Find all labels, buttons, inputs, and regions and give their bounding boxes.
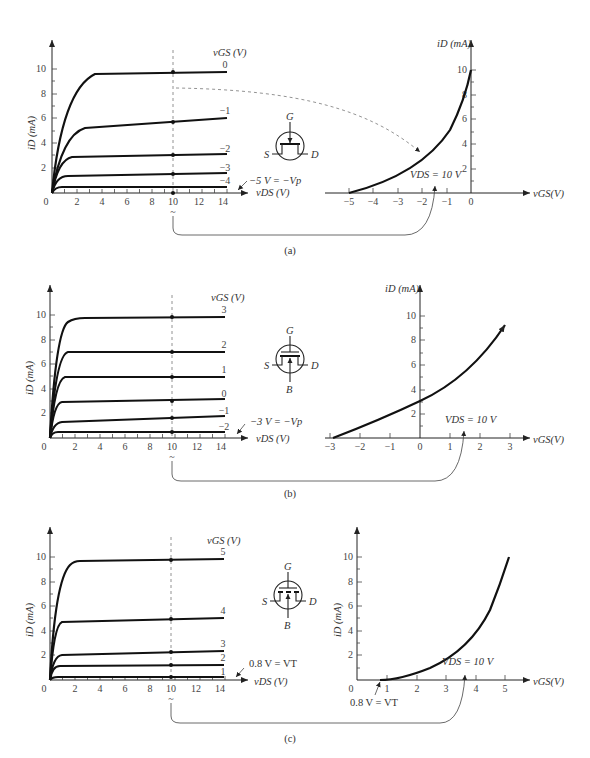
x-tick-label: 0 xyxy=(349,683,354,694)
vds-10-points xyxy=(169,558,173,679)
x-tick-label: 2 xyxy=(478,441,483,452)
y-tick-label: 6 xyxy=(411,359,416,370)
x-tick-label: 14 xyxy=(215,683,225,694)
x-tick-label: −4 xyxy=(368,196,379,207)
y-axis-label: iD (mA) xyxy=(24,360,36,395)
tilde-mark: ~ xyxy=(169,451,175,462)
y-ticks xyxy=(471,70,476,181)
panel-b-output-plot: 10 8 6 4 2 0 2 4 6 8 10 12 14 iD (mA) vD… xyxy=(24,285,302,462)
y-tick-label: 10 xyxy=(343,551,353,562)
y-axis-label: iD (mA) xyxy=(26,115,38,150)
y-tick-label: 6 xyxy=(348,600,353,611)
x-axis-label: vGS(V) xyxy=(533,676,564,688)
y-tick-label: 8 xyxy=(411,334,416,345)
x-tick-label: 5 xyxy=(503,683,508,694)
curve-label: 1 xyxy=(221,666,226,677)
curve-label: −4 xyxy=(220,175,231,186)
gate-label: G xyxy=(284,561,292,572)
x-tick-label: 0 xyxy=(469,196,474,207)
x-tick-label: 6 xyxy=(125,196,130,207)
x-tick-label: 6 xyxy=(123,683,128,694)
vds-note: VDS = 10 V xyxy=(442,656,495,667)
y-tick-label: 10 xyxy=(36,63,46,74)
y-tick-label: 4 xyxy=(41,137,46,148)
y-axis-label: iD (mA) xyxy=(332,602,344,637)
source-label: S xyxy=(262,596,268,607)
x-tick-label: 1 xyxy=(448,441,453,452)
cutoff-arrow xyxy=(237,424,245,434)
y-tick-label: 8 xyxy=(41,334,46,345)
x-axis-label: vDS (V) xyxy=(256,433,290,445)
x-tick-label: 4 xyxy=(474,683,479,694)
x-tick-label: 12 xyxy=(194,196,204,207)
y-tick-label: 6 xyxy=(41,112,46,123)
x-tick-label: 2 xyxy=(73,683,78,694)
y-axis-label: iD (mA) xyxy=(385,283,420,295)
curve-label: −1 xyxy=(219,405,230,416)
x-tick-label: 14 xyxy=(216,441,226,452)
y-tick-label: 8 xyxy=(41,88,46,99)
body-label: B xyxy=(284,620,291,631)
x-tick-label: 0 xyxy=(42,683,47,694)
y-tick-label: 8 xyxy=(348,576,353,587)
y-tick-label: 4 xyxy=(41,625,46,636)
x-tick-label: 0 xyxy=(418,441,423,452)
y-tick-label: 6 xyxy=(41,358,46,369)
threshold-note: 0.8 V = VT xyxy=(249,658,298,669)
curve-label: 1 xyxy=(222,364,227,375)
y-tick-label: 10 xyxy=(406,310,416,321)
panel-a-output-plot: 10 8 6 4 2 0 2 4 6 8 10 12 14 iD (mA) vD… xyxy=(26,40,301,217)
x-tick-label: 3 xyxy=(444,683,449,694)
x-tick-label: −3 xyxy=(325,441,336,452)
x-tick-label: −2 xyxy=(355,441,366,452)
gate-label: G xyxy=(286,325,294,336)
x-axis-label: vDS (V) xyxy=(254,676,288,688)
curve-label: −1 xyxy=(220,105,231,116)
y-tick-label: 2 xyxy=(41,407,46,418)
x-tick-label: 4 xyxy=(98,683,103,694)
x-axis-label: vGS(V) xyxy=(533,434,564,446)
threshold-arrow xyxy=(236,668,244,677)
x-tick-label: 12 xyxy=(192,441,202,452)
y-tick-label: 10 xyxy=(36,309,46,320)
curve-label: 2 xyxy=(221,652,226,663)
x-tick-label: 2 xyxy=(73,441,78,452)
y-tick-label: 2 xyxy=(41,162,46,173)
y-tick-label: 2 xyxy=(411,408,416,419)
curve-label: −2 xyxy=(219,421,230,432)
y-axis-label: iD (mA) xyxy=(437,38,472,50)
fet-characteristics-figure: 10 8 6 4 2 0 2 4 6 8 10 12 14 iD (mA) vD… xyxy=(0,0,590,758)
curve-label: 3 xyxy=(222,304,227,315)
x-tick-label: −2 xyxy=(417,196,428,207)
cutoff-note: −3 V = −Vp xyxy=(250,416,302,427)
x-tick-label: 0 xyxy=(42,441,47,452)
panel-b: 10 8 6 4 2 0 2 4 6 8 10 12 14 iD (mA) vD… xyxy=(24,283,564,500)
x-tick-label: −5 xyxy=(344,196,355,207)
enhancement-mosfet-symbol: G S D B xyxy=(262,561,317,631)
tilde-mark: ~ xyxy=(168,693,174,704)
curve-label: 2 xyxy=(222,339,227,350)
source-label: S xyxy=(264,360,270,371)
curve-label: −3 xyxy=(220,162,231,173)
y-tick-label: 4 xyxy=(348,625,353,636)
x-axis-label: vGS(V) xyxy=(533,188,564,200)
threshold-arrow xyxy=(375,682,380,695)
drain-label: D xyxy=(308,596,317,607)
y-tick-label: 4 xyxy=(411,384,416,395)
x-tick-label: 8 xyxy=(148,441,153,452)
x-ticks xyxy=(63,434,226,438)
y-tick-label: 8 xyxy=(41,576,46,587)
x-tick-label: 4 xyxy=(100,196,105,207)
y-tick-label: 10 xyxy=(36,551,46,562)
x-tick-label: −1 xyxy=(385,441,396,452)
y-tick-label: 6 xyxy=(462,113,467,124)
drain-label: D xyxy=(310,149,319,160)
curve-label: −2 xyxy=(220,143,231,154)
x-tick-label: 8 xyxy=(148,683,153,694)
y-tick-label: 6 xyxy=(41,600,46,611)
curve-label: 3 xyxy=(221,638,226,649)
x-tick-label: −1 xyxy=(442,196,453,207)
jfet-symbol: G S D xyxy=(264,111,319,160)
x-tick-label: 14 xyxy=(218,196,228,207)
y-tick-label: 4 xyxy=(462,138,467,149)
